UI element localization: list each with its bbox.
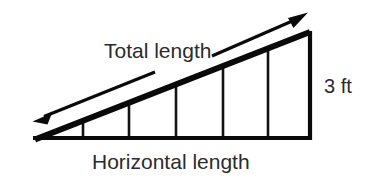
horizontal-length-label: Horizontal length [92, 150, 250, 173]
diagram-canvas: Total length Horizontal length 3 ft [0, 0, 374, 179]
total-length-label: Total length [104, 39, 211, 62]
height-label: 3 ft [324, 75, 352, 97]
ramp-diagram-figure: Total length Horizontal length 3 ft [0, 0, 374, 179]
